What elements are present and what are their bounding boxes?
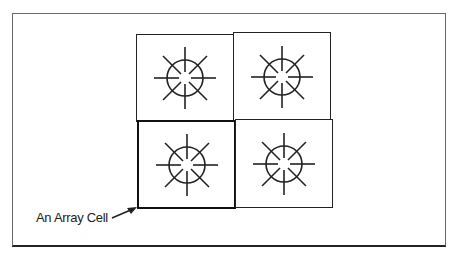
callout-label: An Array Cell <box>36 210 108 225</box>
